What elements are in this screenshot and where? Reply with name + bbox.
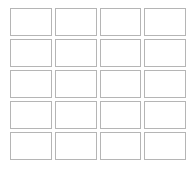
- grid-cell[interactable]: [55, 39, 97, 67]
- grid-cell-label: [11, 71, 51, 97]
- grid-cell[interactable]: [100, 39, 142, 67]
- grid-cell-label: [11, 102, 51, 128]
- grid-cell-label: [56, 9, 96, 35]
- grid-cell[interactable]: [100, 132, 142, 160]
- grid-cell[interactable]: [10, 70, 52, 98]
- grid-cell-label: [101, 71, 141, 97]
- grid-cell[interactable]: [144, 70, 186, 98]
- grid-cell[interactable]: [10, 8, 52, 36]
- grid-cell[interactable]: [144, 132, 186, 160]
- blank-cell-grid: [10, 8, 186, 160]
- page-canvas: [0, 0, 195, 173]
- grid-cell-label: [11, 40, 51, 66]
- grid-cell[interactable]: [100, 101, 142, 129]
- grid-cell-label: [101, 9, 141, 35]
- grid-cell[interactable]: [55, 70, 97, 98]
- grid-cell-label: [145, 9, 185, 35]
- grid-cell[interactable]: [10, 39, 52, 67]
- grid-cell-label: [145, 133, 185, 159]
- grid-cell[interactable]: [144, 101, 186, 129]
- grid-cell[interactable]: [55, 101, 97, 129]
- grid-cell-label: [56, 102, 96, 128]
- grid-cell-label: [56, 71, 96, 97]
- grid-cell-label: [101, 133, 141, 159]
- grid-cell[interactable]: [144, 39, 186, 67]
- grid-cell[interactable]: [10, 132, 52, 160]
- grid-cell-label: [11, 9, 51, 35]
- grid-cell-label: [101, 102, 141, 128]
- grid-cell[interactable]: [55, 132, 97, 160]
- grid-cell[interactable]: [55, 8, 97, 36]
- grid-cell-label: [145, 71, 185, 97]
- grid-cell-label: [56, 40, 96, 66]
- grid-cell-label: [56, 133, 96, 159]
- grid-cell-label: [145, 102, 185, 128]
- grid-cell[interactable]: [10, 101, 52, 129]
- grid-cell-label: [145, 40, 185, 66]
- grid-cell[interactable]: [100, 8, 142, 36]
- grid-cell-label: [11, 133, 51, 159]
- grid-cell[interactable]: [100, 70, 142, 98]
- grid-cell[interactable]: [144, 8, 186, 36]
- grid-cell-label: [101, 40, 141, 66]
